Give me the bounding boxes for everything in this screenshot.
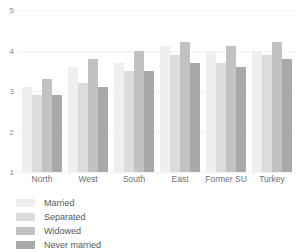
bar	[190, 63, 200, 172]
bar	[262, 55, 272, 172]
bar	[42, 79, 52, 172]
bar-group	[249, 10, 295, 172]
y-axis-tick-label: 5	[10, 7, 14, 15]
bar	[236, 67, 246, 172]
bar	[272, 42, 282, 172]
bar-group	[65, 10, 111, 172]
bar	[88, 59, 98, 172]
bar	[124, 71, 134, 172]
bar	[252, 51, 262, 173]
legend-label: Widowed	[44, 227, 81, 236]
legend-item[interactable]: Widowed	[16, 224, 276, 238]
bar-group	[157, 10, 203, 172]
x-axis-tick-label: Turkey	[249, 174, 295, 184]
legend-swatch	[16, 227, 35, 235]
bar	[170, 55, 180, 172]
bar	[78, 83, 88, 172]
bar	[22, 87, 32, 172]
legend-item[interactable]: Separated	[16, 210, 276, 224]
legend-swatch	[16, 199, 35, 207]
y-axis-tick-label: 1	[10, 169, 14, 177]
bar	[52, 95, 62, 172]
gridline: 1	[19, 172, 295, 173]
x-axis-tick-label: West	[65, 174, 111, 184]
bar	[282, 59, 292, 172]
bar	[114, 63, 124, 172]
legend-swatch	[16, 213, 35, 221]
bar-group	[111, 10, 157, 172]
x-axis-tick-label: South	[111, 174, 157, 184]
bar	[226, 46, 236, 172]
legend-item[interactable]: Never married	[16, 238, 276, 252]
legend-label: Married	[44, 199, 75, 208]
y-axis-tick-label: 4	[10, 48, 14, 56]
bar	[32, 95, 42, 172]
x-axis-labels: NorthWestSouthEastFormer SUTurkey	[19, 174, 295, 184]
legend-item[interactable]: Married	[16, 196, 276, 210]
bar-group	[19, 10, 65, 172]
bar	[144, 71, 154, 172]
bar-group	[203, 10, 249, 172]
legend-swatch	[16, 241, 35, 249]
bar	[216, 63, 226, 172]
plot-area: 12345	[19, 10, 295, 172]
y-axis-tick-label: 3	[10, 88, 14, 96]
x-axis-tick-label: North	[19, 174, 65, 184]
legend-label: Never married	[44, 241, 101, 250]
bar	[160, 46, 170, 172]
bar	[134, 51, 144, 173]
legend-label: Separated	[44, 213, 86, 222]
bar	[206, 51, 216, 173]
bar	[98, 87, 108, 172]
bar	[180, 42, 190, 172]
y-axis-tick-label: 2	[10, 129, 14, 137]
chart-legend: MarriedSeparatedWidowedNever married	[16, 196, 276, 252]
x-axis-tick-label: Former SU	[203, 174, 249, 184]
bar-groups	[19, 10, 295, 172]
bar	[68, 67, 78, 172]
x-axis-tick-label: East	[157, 174, 203, 184]
